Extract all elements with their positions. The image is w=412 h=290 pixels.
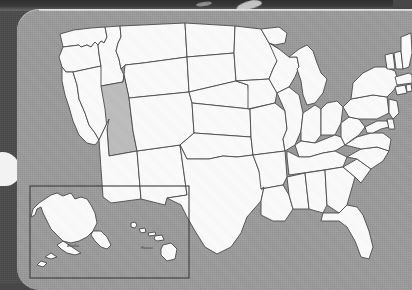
hawaii-island-maui[interactable] <box>154 235 164 241</box>
state-NJ[interactable] <box>389 99 399 119</box>
state-MD[interactable] <box>365 121 389 133</box>
state-RI[interactable] <box>406 84 412 92</box>
state-MO[interactable] <box>250 103 287 155</box>
state-ME[interactable] <box>401 33 412 69</box>
alaska-panhandle[interactable] <box>91 231 111 249</box>
hawaii-island-molokai[interactable] <box>148 232 156 236</box>
state-VT[interactable] <box>385 53 395 69</box>
state-CT[interactable] <box>395 85 407 95</box>
hawaii-island-kauai[interactable] <box>131 222 137 228</box>
state-KS[interactable] <box>192 103 251 137</box>
state-PA[interactable] <box>343 95 389 119</box>
state-AK[interactable] <box>31 193 97 267</box>
us-map[interactable]: Alaska Hawaii <box>17 9 412 290</box>
state-IN[interactable] <box>301 105 321 143</box>
alaska-label: Alaska <box>67 244 79 248</box>
state-OK[interactable] <box>180 133 253 159</box>
state-AL[interactable] <box>305 170 327 213</box>
hawaii-island-hawaii[interactable] <box>161 243 177 261</box>
state-WI[interactable] <box>269 43 299 93</box>
state-ND[interactable] <box>185 23 235 57</box>
state-MA[interactable] <box>395 73 412 85</box>
us-map-svg[interactable]: Alaska Hawaii <box>17 9 412 290</box>
hawaii-label: Hawaii <box>141 246 153 250</box>
state-FL[interactable] <box>321 205 373 259</box>
state-NY[interactable] <box>351 67 399 99</box>
state-OH[interactable] <box>321 101 343 135</box>
hawaii-island-oahu[interactable] <box>139 228 146 233</box>
